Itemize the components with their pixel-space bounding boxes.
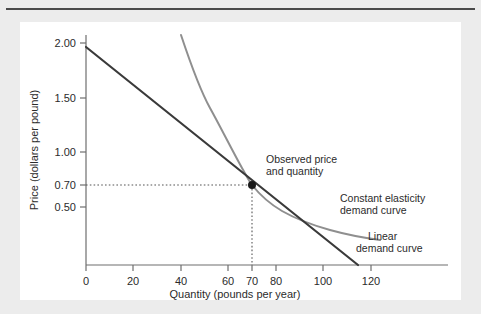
x-axis-title: Quantity (pounds per year) [170,288,301,300]
y-tick-label-0-70: 0.70 [55,179,76,191]
x-tick-label-40: 40 [175,275,187,287]
chart-panel: 2.00 1.50 1.00 0.70 0.50 0 20 40 60 [20,22,461,300]
observed-point-marker [248,181,256,189]
observed-point-label-line1: Observed price [266,153,337,165]
x-axis-ticks: 0 20 40 60 70 80 100 120 [83,265,380,287]
observed-point-guides [86,185,252,265]
x-tick-label-100: 100 [314,275,332,287]
x-tick-label-20: 20 [127,275,139,287]
constant-elasticity-label-line2: demand curve [340,204,407,216]
x-tick-label-60: 60 [222,275,234,287]
demand-curve-chart: 2.00 1.50 1.00 0.70 0.50 0 20 40 60 [20,22,461,300]
observed-point-annotation: Observed price and quantity [266,153,337,177]
constant-elasticity-label-line1: Constant elasticity [340,192,426,204]
y-tick-label-0-50: 0.50 [55,201,76,213]
y-tick-label-1-50: 1.50 [55,92,76,104]
y-axis-title: Price (dollars per pound) [28,90,40,210]
x-tick-label-120: 120 [362,275,380,287]
constant-elasticity-annotation: Constant elasticity demand curve [340,192,426,216]
figure-root: 2.00 1.50 1.00 0.70 0.50 0 20 40 60 [0,0,481,314]
x-tick-label-0: 0 [83,275,89,287]
linear-label-line1: Linear [368,230,398,242]
y-tick-label-1-00: 1.00 [55,146,76,158]
x-tick-label-80: 80 [270,275,282,287]
y-tick-label-2-00: 2.00 [55,37,76,49]
observed-point-label-line2: and quantity [266,165,324,177]
linear-label-line2: demand curve [356,242,423,254]
x-tick-label-70: 70 [246,275,258,287]
y-axis-ticks: 2.00 1.50 1.00 0.70 0.50 [55,37,86,213]
linear-curve-annotation: Linear demand curve [356,230,423,254]
top-horizontal-rule [6,8,475,10]
